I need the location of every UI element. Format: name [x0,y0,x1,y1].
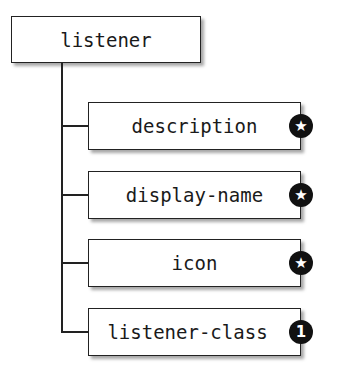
trunk-line [61,63,63,333]
root-node-listener: listener [11,16,201,63]
branch-line [61,331,89,333]
star-icon: ★ [289,251,313,275]
branch-line [61,194,89,196]
node-label: icon [172,252,218,274]
child-node-icon: icon [88,239,301,287]
node-label: listener [60,29,152,51]
star-icon: ★ [289,114,313,138]
node-label: display-name [126,184,263,206]
number-one-icon: 1 [289,320,313,344]
node-label: listener-class [107,321,267,343]
branch-line [61,125,89,127]
node-label: description [132,115,258,137]
branch-line [61,262,89,264]
star-icon: ★ [289,183,313,207]
child-node-description: description [88,102,301,150]
child-node-display-name: display-name [88,171,301,219]
child-node-listener-class: listener-class [88,308,301,356]
